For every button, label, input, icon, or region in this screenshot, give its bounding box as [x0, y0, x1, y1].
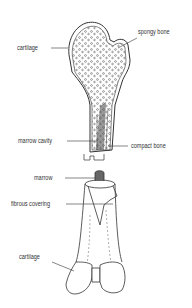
label-spongy-bone: spongy bone [138, 29, 170, 36]
lower-bone [66, 171, 125, 294]
label-fibrous-covering: fibrous covering [11, 201, 50, 208]
label-marrow-cavity: marrow cavity [18, 138, 52, 145]
label-compact-bone: compact bone [131, 143, 166, 150]
label-cartilage-bottom: cartilage [19, 254, 40, 261]
upper-bone-section [69, 22, 130, 152]
label-cartilage-top: cartilage [17, 45, 38, 52]
label-marrow: marrow [34, 175, 52, 182]
